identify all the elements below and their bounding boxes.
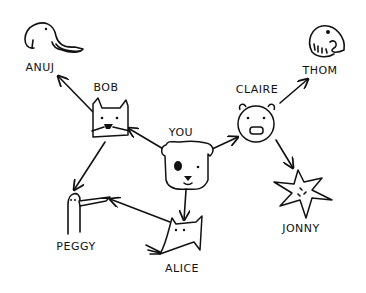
edge-bob-peggy <box>74 142 105 190</box>
cat-icon <box>92 98 130 137</box>
rat-icon <box>146 216 202 254</box>
pig-icon <box>238 104 274 142</box>
node-label-bob: BOB <box>93 81 118 94</box>
graph-drawing <box>0 0 366 293</box>
node-label-alice: ALICE <box>165 262 199 275</box>
fish-icon <box>310 26 345 57</box>
node-label-anuj: ANUJ <box>25 61 54 74</box>
elephant-icon <box>25 23 83 52</box>
bird-icon <box>68 194 110 234</box>
node-label-thom: THOM <box>302 64 337 77</box>
node-label-you: YOU <box>169 126 193 139</box>
node-label-peggy: PEGGY <box>56 240 95 253</box>
edge-bob-anuj <box>58 76 93 112</box>
edge-claire-jonny <box>276 140 293 168</box>
edge-you-alice <box>184 190 186 220</box>
edge-you-bob <box>128 128 165 150</box>
node-label-claire: CLAIRE <box>236 83 278 96</box>
edge-alice-peggy <box>110 199 170 222</box>
edge-you-claire <box>210 137 238 150</box>
starfish-icon <box>274 170 332 218</box>
social-network-diagram: ANUJ BOB YOU CLAIRE THOM JONNY PEGGY ALI… <box>0 0 366 293</box>
node-label-jonny: JONNY <box>282 222 320 235</box>
dog-icon <box>162 141 213 189</box>
edge-claire-thom <box>280 79 308 103</box>
